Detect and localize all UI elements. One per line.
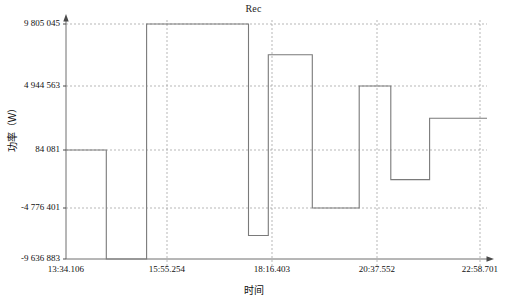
ytick-label-4: -9 636 883 [0, 253, 60, 263]
xtick-label-3: 20:37.552 [337, 264, 417, 274]
chart-plot-area [0, 0, 507, 304]
ytick-label-1: 4 944 563 [0, 80, 60, 90]
horizontal-gridlines [66, 24, 487, 208]
xtick-label-1: 15:55.254 [127, 264, 207, 274]
y-axis [63, 14, 68, 259]
y-axis-title: 功率（W） [4, 93, 19, 163]
xtick-label-4: 22:58.701 [440, 264, 507, 274]
ytick-label-0: 9 805 045 [0, 18, 60, 28]
chart-container: Rec 9 805 045 4 944 563 84 081 -4 776 40… [0, 0, 507, 304]
xtick-label-2: 18:16.403 [232, 264, 312, 274]
y-axis-arrow-icon [63, 14, 68, 22]
x-axis-title: 时间 [0, 282, 507, 297]
vertical-gridlines [167, 20, 480, 266]
data-series-rec [66, 24, 487, 259]
xtick-label-0: 13:34.106 [26, 264, 106, 274]
x-axis-arrow-icon [487, 256, 495, 261]
chart-title: Rec [0, 3, 507, 14]
ytick-label-3: -4 776 401 [0, 202, 60, 212]
